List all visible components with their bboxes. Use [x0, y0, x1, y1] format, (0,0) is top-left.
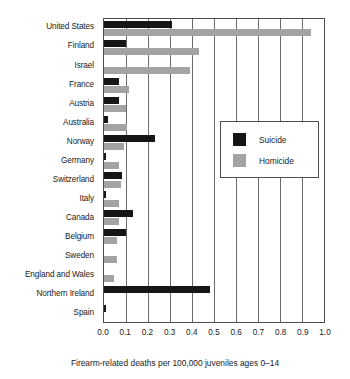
y-axis-label: Israel [0, 56, 99, 75]
bar-homicide [104, 275, 114, 282]
bar-homicide [104, 67, 190, 74]
y-axis-category-labels: United StatesFinlandIsraelFranceAustriaA… [0, 18, 99, 323]
y-axis-label: Finland [0, 37, 99, 56]
bar-homicide [104, 162, 119, 169]
y-axis-label: Germany [0, 151, 99, 170]
chart-legend: SuicideHomicide [220, 121, 319, 178]
x-axis-tick-label: 0.3 [164, 328, 175, 337]
bar-group [104, 189, 324, 208]
x-axis-tick-label: 0.6 [230, 328, 241, 337]
bar-homicide [104, 237, 117, 244]
bar-suicide [104, 116, 108, 123]
legend-item-homicide: Homicide [233, 150, 318, 171]
bar-homicide [104, 124, 127, 131]
bar-homicide [104, 143, 124, 150]
x-axis-title: Firearm-related deaths per 100,000 juven… [0, 358, 350, 368]
y-axis-label: Northern Ireland [0, 285, 99, 304]
bar-group [104, 19, 324, 38]
legend-item-suicide: Suicide [233, 129, 318, 150]
x-axis-tick-label: 1.0 [319, 328, 330, 337]
legend-label: Suicide [259, 135, 286, 145]
bar-group [104, 208, 324, 227]
bar-homicide [104, 181, 121, 188]
x-axis-tick-label: 0.4 [186, 328, 197, 337]
y-axis-label: United States [0, 18, 99, 37]
y-axis-label: Sweden [0, 247, 99, 266]
x-axis-tick-label: 0.1 [119, 328, 130, 337]
x-axis-tick-label: 0.2 [142, 328, 153, 337]
bar-suicide [104, 286, 210, 293]
bar-suicide [104, 97, 119, 104]
y-axis-label: Australia [0, 113, 99, 132]
bar-group [104, 76, 324, 95]
bar-homicide [104, 218, 119, 225]
bar-homicide [104, 48, 199, 55]
bar-suicide [104, 305, 106, 312]
bar-suicide [104, 21, 172, 28]
bar-homicide [104, 200, 119, 207]
firearm-deaths-bar-chart: United StatesFinlandIsraelFranceAustriaA… [0, 0, 350, 379]
y-axis-label: Norway [0, 132, 99, 151]
y-axis-label: France [0, 75, 99, 94]
x-axis-tick-label: 0.8 [275, 328, 286, 337]
bar-group [104, 303, 324, 322]
bar-group [104, 246, 324, 265]
y-axis-label: England and Wales [0, 266, 99, 285]
bar-suicide [104, 153, 106, 160]
x-axis-tick-label: 0.7 [253, 328, 264, 337]
bar-group [104, 57, 324, 76]
legend-swatch-icon [233, 154, 246, 167]
bar-homicide [104, 105, 126, 112]
y-axis-label: Switzerland [0, 171, 99, 190]
y-axis-label: Canada [0, 209, 99, 228]
x-axis-tick-labels: 0.00.10.20.30.40.50.60.70.80.91.0 [103, 328, 325, 340]
y-axis-label: Italy [0, 190, 99, 209]
bar-group [104, 95, 324, 114]
legend-label: Homicide [259, 156, 294, 166]
bar-suicide [104, 229, 126, 236]
x-axis-tick-label: 0.5 [208, 328, 219, 337]
bar-group [104, 284, 324, 303]
x-axis-tick-label: 0.9 [297, 328, 308, 337]
bar-group [104, 227, 324, 246]
bar-suicide [104, 210, 133, 217]
bar-group [104, 38, 324, 57]
bar-group [104, 265, 324, 284]
y-axis-label: Belgium [0, 228, 99, 247]
y-axis-label: Spain [0, 304, 99, 323]
bar-suicide [104, 135, 155, 142]
y-axis-label: Austria [0, 94, 99, 113]
bar-suicide [104, 191, 106, 198]
bar-suicide [104, 78, 119, 85]
bar-homicide [104, 256, 117, 263]
bar-homicide [104, 29, 311, 36]
bar-homicide [104, 86, 129, 93]
bar-suicide [104, 40, 126, 47]
bar-suicide [104, 172, 122, 179]
x-axis-tick-label: 0.0 [97, 328, 108, 337]
legend-swatch-icon [233, 133, 246, 146]
